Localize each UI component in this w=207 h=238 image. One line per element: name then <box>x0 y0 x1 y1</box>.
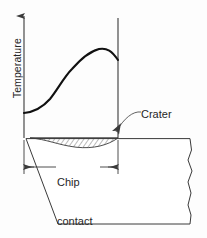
crater-wear-diagram: Temperature Crater Chip contact length <box>0 0 207 238</box>
chip-contact-length-line-2: contact <box>57 215 92 228</box>
chip-contact-length-line-1: Chip <box>57 176 92 189</box>
crater-annotation-label: Crater <box>141 108 172 121</box>
temperature-curve <box>24 49 118 113</box>
diagram-canvas <box>0 0 207 238</box>
temperature-axis-label: Temperature <box>11 24 23 112</box>
chip-contact-length-label: Chip contact length <box>57 150 92 238</box>
crater-leader-line <box>116 112 141 132</box>
tool-body-outline <box>26 139 192 224</box>
